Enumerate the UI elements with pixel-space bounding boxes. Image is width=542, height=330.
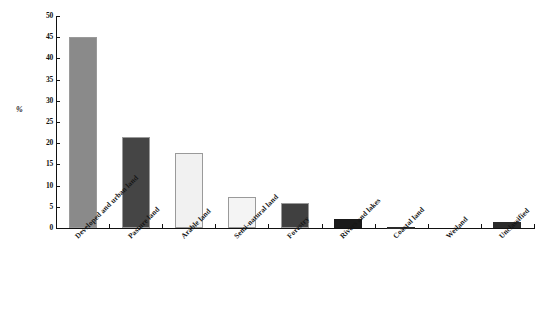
y-axis-tick-label: 25 (46, 117, 53, 126)
y-axis-tick-mark (56, 101, 60, 102)
x-axis-tick-mark (534, 224, 535, 229)
y-axis-tick-label: 35 (46, 75, 53, 84)
y-axis-tick-mark (56, 164, 60, 165)
y-axis-tick: 15 (28, 164, 60, 165)
y-axis-title: % (16, 105, 23, 114)
y-axis-tick-label: 0 (49, 223, 53, 232)
y-axis-tick-mark (56, 37, 60, 38)
y-axis-tick-mark (56, 143, 60, 144)
bar-chart: % 50454035302520151050 Developed and urb… (0, 0, 542, 330)
y-axis-tick-mark (56, 122, 60, 123)
y-axis-tick-mark (56, 80, 60, 81)
y-axis-tick-label: 15 (46, 159, 53, 168)
x-axis-tick-mark (268, 224, 269, 229)
y-axis-tick-label: 5 (49, 202, 53, 211)
x-axis-tick-mark (481, 224, 482, 229)
y-axis-tick: 40 (28, 58, 60, 59)
y-axis-tick-label: 30 (46, 96, 53, 105)
y-axis-tick-mark (56, 16, 60, 17)
x-axis-tick-mark (428, 224, 429, 229)
y-axis-tick-label: 50 (46, 11, 53, 20)
x-axis-tick-mark (215, 224, 216, 229)
y-axis-tick: 35 (28, 80, 60, 81)
y-axis-tick: 10 (28, 186, 60, 187)
bar (69, 37, 97, 228)
y-axis-tick: 5 (28, 207, 60, 208)
y-axis-tick-label: 20 (46, 138, 53, 147)
y-axis-tick: 30 (28, 101, 60, 102)
y-axis-tick-label: 40 (46, 53, 53, 62)
y-axis-tick-mark (56, 186, 60, 187)
y-axis-tick-label: 10 (46, 181, 53, 190)
x-axis-tick-mark (375, 224, 376, 229)
x-axis-category-label: Coastal land (391, 205, 426, 240)
x-axis-tick-mark (109, 224, 110, 229)
y-axis-tick-mark (56, 58, 60, 59)
y-axis-tick-mark (56, 207, 60, 208)
x-axis-tick-mark (322, 224, 323, 229)
y-axis-tick: 25 (28, 122, 60, 123)
y-axis-tick: 50 (28, 16, 60, 17)
y-axis-tick: 20 (28, 143, 60, 144)
x-axis-tick-mark (56, 224, 57, 229)
y-axis-tick: 45 (28, 37, 60, 38)
x-axis-tick-mark (162, 224, 163, 229)
y-axis-tick-label: 45 (46, 32, 53, 41)
